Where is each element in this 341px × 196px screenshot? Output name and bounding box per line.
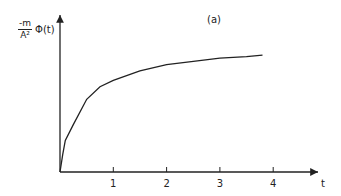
y-axis-label: -m A² Φ(t) xyxy=(18,18,55,41)
x-tick-label: 2 xyxy=(163,178,169,189)
data-line-phi xyxy=(60,55,263,172)
y-label-function: Φ(t) xyxy=(35,24,55,35)
x-tick-label: 1 xyxy=(110,178,116,189)
x-tick-label: 4 xyxy=(270,178,276,189)
x-axis-label: t xyxy=(321,178,325,189)
y-label-fraction: -m A² xyxy=(18,18,32,41)
x-tick-label: 3 xyxy=(217,178,223,189)
y-label-denominator: A² xyxy=(20,30,30,41)
panel-label: (a) xyxy=(207,14,221,25)
y-label-numerator: -m xyxy=(18,18,32,30)
x-ticks xyxy=(113,167,273,172)
